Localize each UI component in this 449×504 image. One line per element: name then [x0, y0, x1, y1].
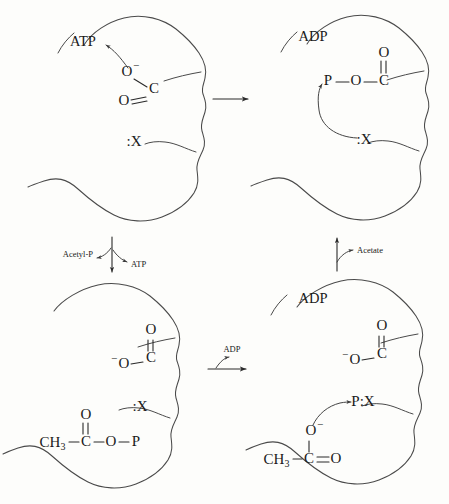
arrow-label-adp: ADP	[223, 344, 240, 354]
atom-c-bottom-right: C	[377, 345, 387, 361]
atom-p-top-right: P	[324, 72, 332, 88]
cleft-line-lower	[145, 142, 196, 152]
enzyme-mechanism-figure: ATP O − C O :X ADP	[0, 0, 449, 504]
bottom-right-contents: ADP O C O − P:X O − CH 3 C O	[264, 290, 388, 469]
charge-minus-acetate-br: −	[317, 418, 323, 430]
curved-arrow-x-to-p	[318, 84, 357, 138]
arrow-label-atp-release: ATP	[131, 259, 146, 269]
atom-c-top-right: C	[379, 72, 389, 88]
atom-o-minus-acetate-br: O	[306, 422, 317, 438]
arrow-label-acetyl-p: Acetyl-P	[63, 249, 93, 259]
atom-o-ester-bottom-left: O	[106, 433, 117, 449]
label-adp-bottom-right: ADP	[298, 290, 327, 306]
atom-c-top-left: C	[149, 80, 159, 96]
residue-x-bottom-left: :X	[133, 398, 148, 414]
residue-x-top-right: :X	[357, 131, 372, 147]
enzyme-blob-top-right	[251, 15, 429, 220]
top-right-contents: ADP P O C O :X	[298, 28, 389, 147]
label-adp-top-right: ADP	[298, 28, 327, 44]
reaction-arrow-left-vertical: Acetyl-P ATP	[63, 237, 147, 272]
atom-c-bottom-left: C	[146, 349, 156, 365]
atom-o-minus-top-left: O	[122, 63, 133, 79]
bond-c-o-minus-bl	[131, 362, 143, 364]
arrow-feed-acetate	[337, 250, 353, 262]
label-atp-top-left: ATP	[70, 33, 96, 49]
adp-tail-stroke-br	[271, 295, 287, 315]
reaction-arrow-bottom-horizontal: ADP	[208, 344, 246, 369]
atom-o-minus-bottom-right: O	[350, 351, 361, 367]
atom-o-carbonyl-bottom-left: O	[146, 321, 157, 337]
arrow-label-acetate: Acetate	[357, 245, 383, 255]
bond-c-o-double-a-top-left	[131, 97, 146, 100]
atom-o-carbonyl-top-left: O	[119, 92, 130, 108]
bond-c-o-double-b-top-left	[132, 101, 147, 104]
atom-ch-bottom-left: CH	[40, 434, 61, 450]
bond-o-c-top-left	[134, 79, 147, 87]
arrow-feed-adp	[216, 357, 229, 368]
atom-o-acetate-bottom-right: O	[331, 450, 342, 466]
cleft-line-upper-br	[381, 334, 418, 343]
charge-minus-bottom-right: −	[342, 348, 348, 360]
bond-c-o-minus-br	[362, 358, 374, 360]
cleft-line-upper-bl	[138, 338, 175, 347]
atom-o-acetyl-bottom-left: O	[81, 406, 92, 422]
atom-o-bridge-top-right: O	[351, 72, 362, 88]
enzyme-blob-top-left	[28, 16, 206, 221]
charge-minus-top-left: −	[133, 59, 139, 71]
atom-o-minus-bottom-left: O	[119, 355, 130, 371]
mechanism-canvas: ATP O − C O :X ADP	[0, 0, 449, 504]
atom-o-carbonyl-top-right: O	[379, 44, 390, 60]
arrow-release-atp	[113, 250, 127, 262]
cleft-line-lower-tr	[368, 141, 419, 151]
atom-c-acetyl-bottom-left: C	[81, 433, 91, 449]
charge-minus-bottom-left: −	[111, 352, 117, 364]
atom-o-carbonyl-bottom-right: O	[377, 317, 388, 333]
top-left-contents: ATP O − C O :X	[70, 33, 159, 149]
reaction-arrow-right-vertical: Acetate	[337, 238, 383, 271]
arrow-feed-acetylp	[97, 248, 111, 258]
enzyme-blob-bottom-left	[3, 284, 180, 488]
atom-ch-bottom-right: CH	[264, 451, 285, 467]
atom-c-acetate-bottom-right: C	[304, 450, 314, 466]
adp-tail-stroke	[281, 32, 297, 52]
bottom-left-contents: O C O − :X CH 3 C O O	[40, 321, 157, 452]
residue-x-top-left: :X	[127, 133, 142, 149]
atom-ch3-subscript-bottom-right: 3	[285, 458, 290, 469]
residue-px-bottom-right: P:X	[351, 393, 375, 409]
cleft-line-upper	[164, 72, 201, 81]
atom-ch3-subscript-bottom-left: 3	[61, 441, 66, 452]
cleft-line-upper-tr	[387, 71, 424, 80]
atom-p-bottom-left: P	[132, 433, 140, 449]
